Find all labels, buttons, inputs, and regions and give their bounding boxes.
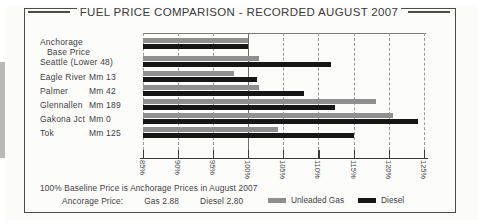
category-label-6: Tok: [40, 128, 54, 138]
bar-gas-6: [143, 127, 279, 132]
legend-swatch-gas: [268, 198, 286, 203]
category-name: Anchorage: [40, 37, 83, 47]
category-label-4: Glennallen: [40, 100, 83, 110]
chart-title-container: FUEL PRICE COMPARISON - RECORDED AUGUST …: [24, 1, 454, 23]
bar-diesel-1: [143, 62, 331, 67]
bar-gas-0: [143, 38, 248, 43]
x-tick-85: [143, 150, 144, 159]
legend-label-gas: Unleaded Gas: [291, 195, 344, 205]
footnote-baseline: 100% Baseline Price is Anchorage Prices …: [40, 183, 258, 193]
category-subname: Base Price: [40, 47, 90, 57]
bar-gas-3: [143, 85, 260, 90]
bar-diesel-4: [143, 105, 335, 110]
category-label-2: Eagle River: [40, 72, 86, 82]
legend-swatch-diesel: [358, 198, 376, 203]
scan-artifact-bar: [0, 62, 5, 158]
legend-label-diesel: Diesel: [381, 195, 404, 205]
category-name: Eagle River: [40, 72, 86, 82]
footnote-gas-price: Gas 2.88: [144, 196, 179, 206]
category-label-1: Seattle (Lower 48): [40, 57, 113, 67]
bar-gas-4: [143, 99, 376, 104]
category-label-5: Gakona Jct: [40, 114, 85, 124]
x-tick-label-95: 95%: [208, 160, 217, 175]
footnote-prices: Ancorage Price: Gas 2.88 Diesel 2.80: [62, 196, 243, 206]
milepost-label-3: Mm 42: [89, 86, 116, 96]
x-tick-label-85: 85%: [138, 160, 147, 175]
x-tick-125: [424, 150, 425, 159]
bar-gas-2: [143, 71, 234, 76]
milepost-label-6: Mm 125: [89, 128, 121, 138]
title-rule-left: [28, 11, 70, 13]
category-name: Palmer: [40, 86, 68, 96]
legend-item-diesel: Diesel: [358, 195, 404, 205]
bar-gas-5: [143, 113, 393, 118]
chart-legend: Unleaded GasDiesel: [268, 195, 404, 205]
x-tick-label-120: 120%: [384, 160, 393, 179]
legend-item-gas: Unleaded Gas: [268, 195, 344, 205]
footnote-prices-prefix: Ancorage Price:: [62, 196, 123, 206]
title-rule-right: [408, 11, 450, 13]
bar-gas-1: [143, 56, 259, 61]
page-title: FUEL PRICE COMPARISON - RECORDED AUGUST …: [77, 6, 402, 18]
milepost-label-5: Mm 0: [89, 114, 111, 124]
x-tick-label-125: 125%: [419, 160, 428, 179]
bar-diesel-3: [143, 91, 305, 96]
category-name: Seattle (Lower 48): [40, 57, 113, 67]
bar-diesel-5: [143, 119, 419, 124]
category-name: Tok: [40, 128, 54, 138]
x-tick-label-100: 100%: [243, 160, 252, 179]
footnote-diesel-price: Diesel 2.80: [200, 196, 243, 206]
x-tick-95: [213, 150, 214, 159]
x-tick-115: [354, 150, 355, 159]
category-name: Glennallen: [40, 100, 83, 110]
x-tick-100: [248, 150, 249, 159]
x-tick-110: [318, 150, 319, 159]
plot-top-rule: [143, 33, 426, 34]
category-name: Gakona Jct: [40, 114, 85, 124]
x-tick-label-115: 115%: [349, 160, 358, 179]
scan-edge-bottom: [0, 220, 478, 224]
x-tick-label-105: 105%: [278, 160, 287, 179]
x-tick-120: [389, 150, 390, 159]
bar-diesel-2: [143, 77, 258, 82]
bar-diesel-6: [143, 133, 354, 138]
x-tick-105: [283, 150, 284, 159]
x-tick-label-90: 90%: [173, 160, 182, 175]
milepost-label-4: Mm 189: [89, 100, 121, 110]
category-label-3: Palmer: [40, 86, 68, 96]
x-tick-90: [178, 150, 179, 159]
x-tick-label-110: 110%: [313, 160, 322, 179]
bar-diesel-0: [143, 44, 248, 49]
category-label-0: AnchorageBase Price: [40, 37, 90, 57]
milepost-label-2: Mm 13: [89, 72, 116, 82]
